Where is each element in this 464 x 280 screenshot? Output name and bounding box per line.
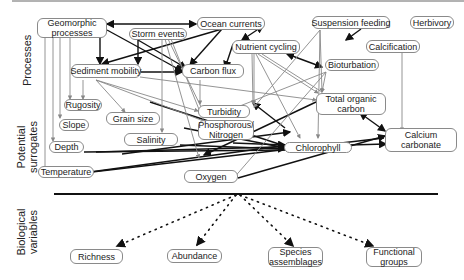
node-carbon-flux: Carbon flux — [182, 64, 244, 78]
node-calcification: Calcification — [366, 40, 420, 53]
node-slope: Slope — [59, 119, 89, 131]
node-suspension-feeding: Suspension feeding — [312, 16, 390, 29]
node-herbivory: Herbivory — [410, 16, 454, 29]
node-bioturbation: Bioturbation — [325, 59, 379, 71]
node-chlorophyll: Chlorophyll — [284, 142, 352, 153]
node-functional-groups: Functional groups — [366, 247, 422, 267]
section-label-processes: Processes — [21, 36, 33, 86]
node-storm-events: Storm events — [129, 28, 187, 40]
node-abundance: Abundance — [167, 249, 222, 263]
node-species-assemblages: Species assemblages — [268, 247, 323, 267]
node-sediment-mobility: Sediment mobility — [71, 64, 141, 78]
node-nutrient-cycling: Nutrient cycling — [232, 40, 300, 54]
node-salinity: Salinity — [124, 133, 178, 146]
node-depth: Depth — [49, 141, 84, 153]
section-label-biological: Biologicalvariables — [15, 197, 39, 267]
bio-label-line1: Biological — [15, 208, 27, 255]
node-geomorphic-processes: Geomorphic processes — [37, 18, 107, 38]
node-calcium-carbonate: Calcium carbonate — [385, 128, 457, 152]
node-rugosity: Rugosity — [64, 99, 102, 111]
surrogates-label-line1: Potential — [15, 126, 27, 169]
node-phosphorous-nitrogen: Phosphorous/ Nitrogen — [198, 120, 254, 140]
node-grain-size: Grain size — [106, 112, 160, 125]
node-turbidity: Turbidity — [198, 105, 250, 118]
processes-label: Processes — [21, 35, 33, 86]
node-richness: Richness — [70, 249, 123, 264]
surrogates-label-line2: surrogates — [27, 121, 39, 173]
node-total-organic-carbon: Total organic carbon — [316, 93, 386, 115]
section-label-surrogates: Potentialsurrogates — [15, 112, 39, 182]
diagram: Processes Potentialsurrogates Biological… — [0, 0, 464, 280]
node-oxygen: Oxygen — [184, 170, 238, 183]
bio-label-line2: variables — [27, 210, 39, 254]
node-ocean-currents: Ocean currents — [197, 17, 265, 30]
node-temperature: Temperature — [38, 166, 94, 178]
